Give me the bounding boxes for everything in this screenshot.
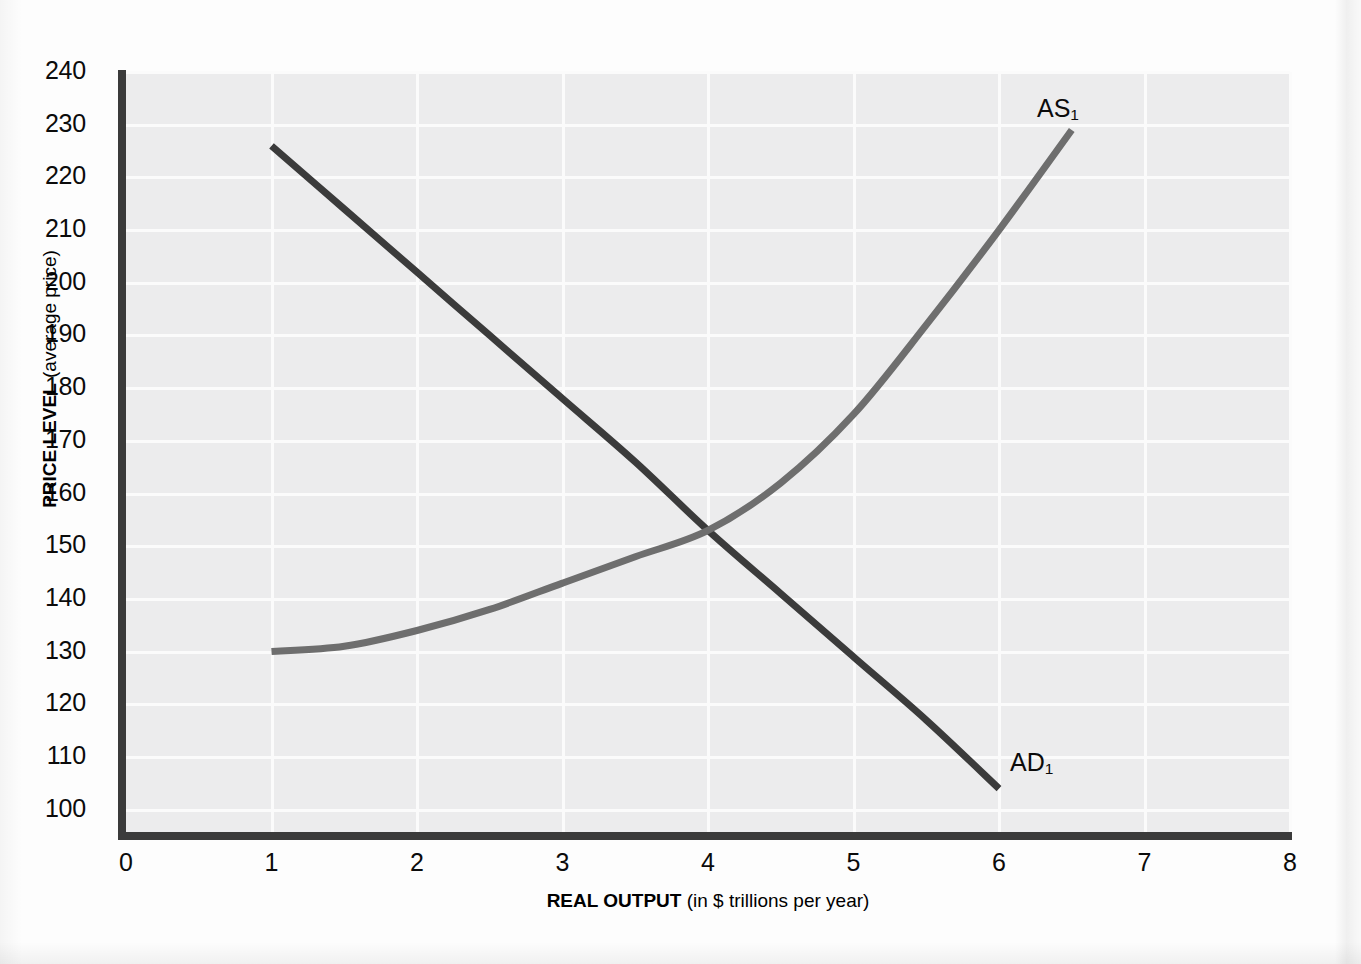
x-axis-title: REAL OUTPUT (in $ trillions per year)	[126, 890, 1290, 912]
ad1-curve-label: AD1	[1010, 748, 1053, 777]
x-axis-tick-label: 4	[678, 848, 738, 877]
y-axis-tick-label: 120	[26, 688, 86, 717]
x-axis-tick-label: 5	[824, 848, 884, 877]
gridline-vertical	[416, 72, 419, 836]
x-axis-tick-label: 0	[96, 848, 156, 877]
y-axis-title: PRICE LEVEL (average price)	[39, 169, 61, 589]
x-axis-title-bold: REAL OUTPUT	[547, 890, 682, 911]
x-axis-tick-label: 1	[242, 848, 302, 877]
as1-label-text: AS	[1037, 94, 1070, 122]
y-axis-title-bold: PRICE LEVEL	[39, 383, 60, 508]
gridline-vertical	[1289, 72, 1292, 836]
as1-curve-label: AS1	[1037, 94, 1079, 123]
y-axis-tick-label: 240	[26, 56, 86, 85]
gridline-vertical	[998, 72, 1001, 836]
x-axis-tick-label: 7	[1115, 848, 1175, 877]
y-axis-tick-label: 130	[26, 636, 86, 665]
x-axis-line	[118, 832, 1292, 840]
x-axis-tick-label: 3	[533, 848, 593, 877]
gridline-vertical	[707, 72, 710, 836]
gridline-vertical	[562, 72, 565, 836]
y-axis-tick-label: 230	[26, 109, 86, 138]
y-axis-title-rest: (average price)	[39, 250, 60, 383]
x-axis-tick-label: 8	[1260, 848, 1320, 877]
ad-as-chart-figure: 1001101201301401501601701801902002102202…	[0, 0, 1361, 964]
ad1-label-subscript: 1	[1045, 760, 1054, 777]
x-axis-tick-label: 6	[969, 848, 1029, 877]
plot-area	[126, 72, 1290, 836]
x-axis-tick-label: 2	[387, 848, 447, 877]
ad1-label-text: AD	[1010, 748, 1045, 776]
as1-label-subscript: 1	[1070, 106, 1079, 123]
x-axis-title-rest: (in $ trillions per year)	[681, 890, 869, 911]
gridline-vertical	[853, 72, 856, 836]
gridline-vertical	[1144, 72, 1147, 836]
y-axis-line	[118, 70, 126, 840]
y-axis-tick-label: 110	[26, 741, 86, 770]
gridline-vertical	[271, 72, 274, 836]
y-axis-tick-label: 100	[26, 794, 86, 823]
